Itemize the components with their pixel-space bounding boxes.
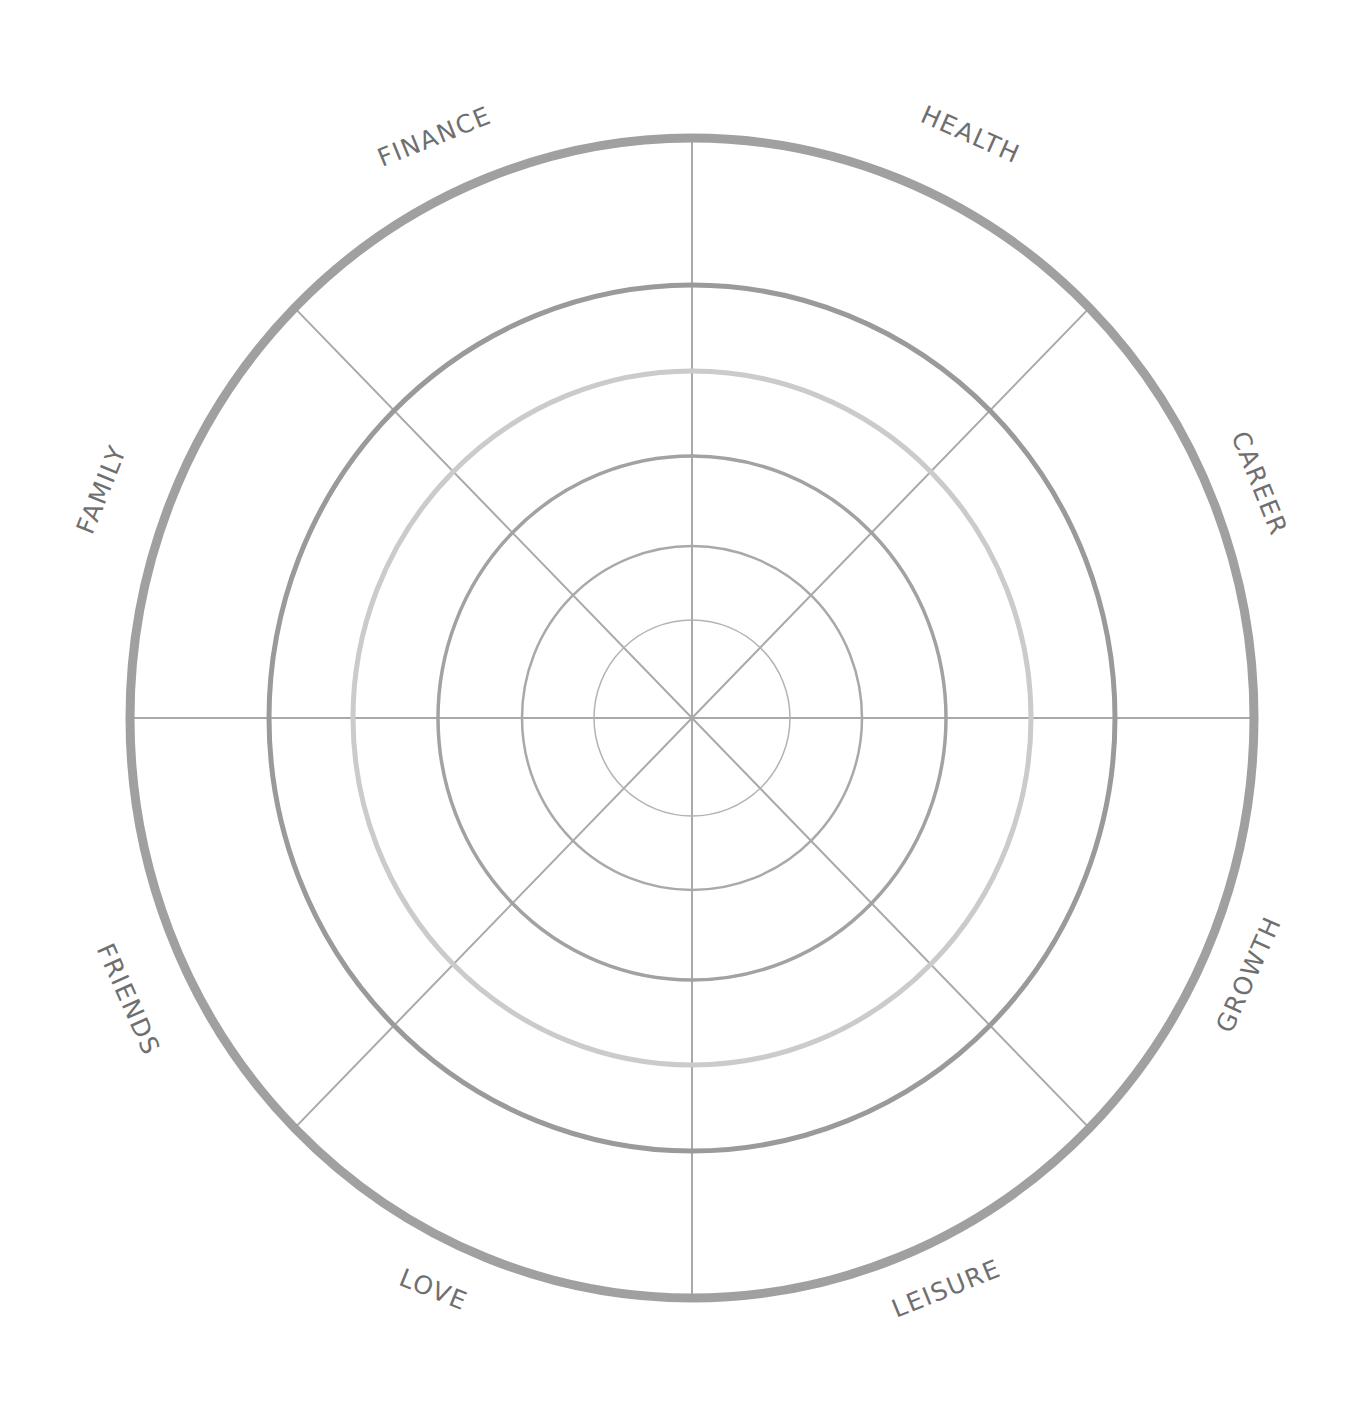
segment-label-growth: GROWTH: [1210, 912, 1287, 1037]
segment-label-love: LOVE: [395, 1263, 472, 1317]
spoke-line: [692, 718, 1089, 1128]
spoke-line: [295, 718, 692, 1128]
segment-label-health: HEALTH: [917, 100, 1025, 169]
spoke-line: [295, 308, 692, 718]
wheel-of-life-diagram: HEALTHCAREERGROWTHLEISURELOVEFRIENDSFAMI…: [0, 0, 1368, 1412]
segment-label-finance: FINANCE: [373, 101, 495, 173]
spokes: [130, 138, 1254, 1298]
segment-label-friends: FRIENDS: [91, 939, 166, 1060]
segment-label-leisure: LEISURE: [888, 1254, 1005, 1324]
segment-label-career: CAREER: [1225, 427, 1293, 540]
spoke-line: [692, 308, 1089, 718]
segment-label-family: FAMILY: [71, 441, 133, 538]
